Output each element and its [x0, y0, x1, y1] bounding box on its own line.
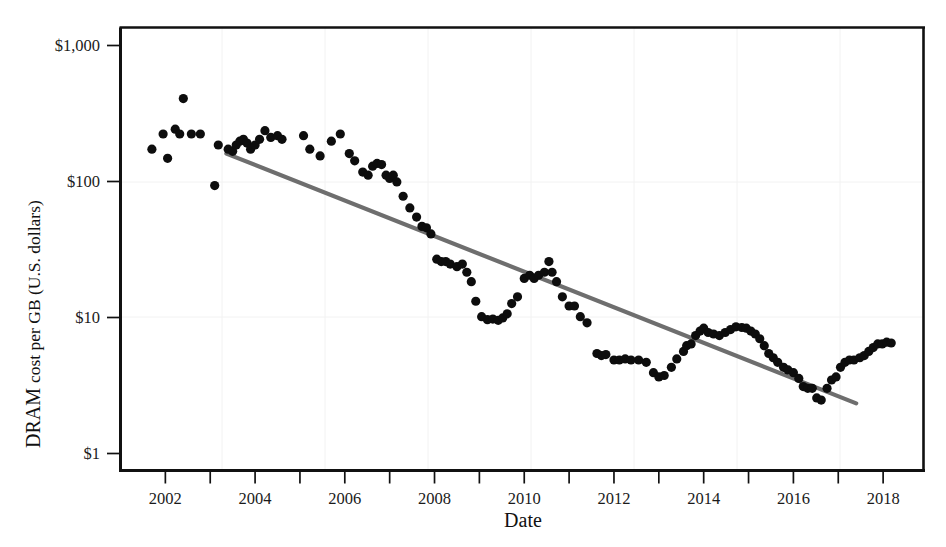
data-point	[687, 339, 696, 348]
x-tick-label-2010: 2010	[508, 489, 541, 508]
data-point	[760, 341, 769, 350]
data-point	[547, 268, 556, 277]
data-point	[214, 140, 223, 149]
data-point	[672, 354, 681, 363]
data-point	[426, 229, 435, 238]
x-axis-tick-labels: 200220042006200820102012201420162018	[149, 489, 900, 508]
data-point	[364, 171, 373, 180]
data-point	[887, 338, 896, 347]
data-point	[817, 395, 826, 404]
chart-background	[0, 0, 946, 547]
data-point	[471, 297, 480, 306]
data-point	[552, 277, 561, 286]
data-point	[179, 94, 188, 103]
data-point	[544, 257, 553, 266]
data-point	[163, 154, 172, 163]
data-point	[159, 129, 168, 138]
data-point	[175, 129, 184, 138]
data-point	[822, 384, 831, 393]
dram-cost-scatter-chart: $1,000 $100 $10 $1 200220042006200820102…	[0, 0, 946, 547]
data-point	[503, 309, 512, 318]
data-point	[277, 135, 286, 144]
data-point	[513, 292, 522, 301]
data-point	[831, 372, 840, 381]
data-point	[299, 131, 308, 140]
data-point	[316, 151, 325, 160]
x-axis-title: Date	[504, 509, 542, 531]
x-tick-label-2012: 2012	[597, 489, 630, 508]
data-point	[405, 203, 414, 212]
data-point	[392, 177, 401, 186]
data-point	[570, 301, 579, 310]
x-tick-label-2014: 2014	[687, 489, 720, 508]
svg-text:DRAM cost per GB (U.S. dollars: DRAM cost per GB (U.S. dollars)	[22, 200, 44, 448]
data-point	[377, 160, 386, 169]
data-point	[667, 363, 676, 372]
data-point	[462, 268, 471, 277]
x-tick-label-2002: 2002	[149, 489, 182, 508]
data-point	[327, 137, 336, 146]
y-tick-label-10: $10	[75, 308, 100, 327]
x-tick-label-2008: 2008	[418, 489, 451, 508]
data-point	[808, 384, 817, 393]
data-point	[210, 181, 219, 190]
data-point	[558, 292, 567, 301]
figure-root: $1,000 $100 $10 $1 200220042006200820102…	[0, 0, 946, 547]
x-tick-label-2016: 2016	[777, 489, 810, 508]
x-tick-label-2004: 2004	[239, 489, 272, 508]
data-point	[412, 213, 421, 222]
data-point	[196, 129, 205, 138]
y-axis-title: DRAM cost per GB (U.S. dollars)	[22, 200, 44, 448]
data-point	[336, 129, 345, 138]
data-point	[582, 318, 591, 327]
data-point	[794, 374, 803, 383]
x-axis-title-text: Date	[504, 509, 542, 531]
data-point	[255, 135, 264, 144]
data-point	[187, 129, 196, 138]
data-point	[458, 259, 467, 268]
y-axis-title-rest: cost per GB (U.S. dollars)	[24, 200, 44, 383]
data-point	[601, 350, 610, 359]
data-point	[350, 156, 359, 165]
y-tick-label-1000: $1,000	[55, 36, 100, 55]
y-axis-title-lead: DRAM	[22, 388, 44, 448]
x-tick-label-2018: 2018	[867, 489, 900, 508]
x-tick-label-2006: 2006	[328, 489, 361, 508]
y-tick-label-1: $1	[84, 444, 101, 463]
data-point	[660, 371, 669, 380]
data-point	[399, 192, 408, 201]
data-point	[147, 145, 156, 154]
data-point	[642, 358, 651, 367]
data-point	[305, 145, 314, 154]
data-point	[467, 277, 476, 286]
y-tick-label-100: $100	[67, 172, 100, 191]
